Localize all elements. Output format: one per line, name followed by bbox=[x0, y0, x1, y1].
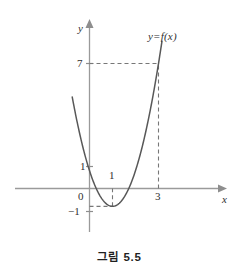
tick-label-x-one: 1 bbox=[109, 170, 115, 181]
figure-caption: 그림 5.5 bbox=[0, 248, 238, 264]
y-axis bbox=[86, 19, 94, 232]
y-axis-label: y bbox=[78, 23, 83, 34]
tick-label-origin: 0 bbox=[78, 191, 84, 202]
x-axis bbox=[15, 185, 227, 193]
tick-label-y-minus-one: −1 bbox=[68, 206, 80, 217]
curve-label: y=f(x) bbox=[148, 31, 177, 42]
function-curve bbox=[72, 41, 162, 206]
x-axis-label: x bbox=[222, 194, 227, 205]
tick-label-y-one: 1 bbox=[80, 161, 86, 172]
tick-label-y-seven: 7 bbox=[77, 58, 83, 69]
tick-label-x-three: 3 bbox=[155, 191, 161, 202]
parabola-plot bbox=[0, 0, 238, 248]
figure-container: y x 7 1 0 −1 1 3 y=f(x) 그림 5.5 bbox=[0, 0, 238, 272]
